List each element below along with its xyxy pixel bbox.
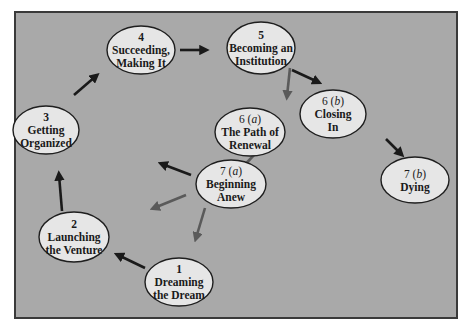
node-number: 1: [176, 263, 182, 275]
node-label-line: the Dream: [153, 289, 205, 301]
node-3: 3GettingOrganized: [13, 106, 79, 154]
node-7a: 7 (a)BeginningAnew: [196, 160, 266, 208]
node-number: 5: [258, 29, 264, 41]
node-5: 5Becoming anInstitution: [227, 22, 295, 74]
node-6a: 6 (a)The Path ofRenewal: [215, 108, 285, 156]
node-label-line: In: [328, 121, 339, 133]
node-number: 2: [71, 218, 77, 230]
node-label-line: The Path of: [221, 126, 279, 138]
node-label-line: Becoming an: [229, 42, 293, 55]
node-label-line: Making It: [116, 57, 166, 70]
node-7b: 7 (b)Dying: [381, 157, 449, 203]
node-4: 4Succeeding,Making It: [107, 26, 175, 74]
life-cycle-diagram: 1Dreamingthe Dream2Launchingthe Venture3…: [0, 0, 466, 324]
node-number: 3: [43, 111, 49, 123]
node-number: 6 (b): [322, 95, 344, 108]
node-label-line: Succeeding,: [112, 44, 170, 57]
node-number: 6 (a): [239, 113, 261, 126]
node-label-line: Anew: [217, 191, 246, 203]
node-label-line: Getting: [27, 124, 64, 137]
node-label-line: Organized: [20, 137, 72, 150]
node-label-line: Dreaming: [155, 276, 204, 289]
node-label-line: Renewal: [229, 139, 271, 151]
node-1: 1Dreamingthe Dream: [145, 258, 213, 306]
node-label-line: Dying: [400, 181, 430, 194]
node-number: 4: [138, 31, 144, 43]
node-label-line: Launching: [47, 231, 100, 244]
node-6b: 6 (b)ClosingIn: [300, 90, 366, 138]
node-label-line: Beginning: [206, 178, 256, 191]
node-number: 7 (a): [220, 165, 242, 178]
node-label-line: the Venture: [46, 244, 103, 256]
node-2: 2Launchingthe Venture: [39, 212, 109, 262]
node-label-line: Institution: [235, 55, 287, 67]
node-label-line: Closing: [314, 108, 351, 121]
node-number: 7 (b): [404, 168, 426, 181]
